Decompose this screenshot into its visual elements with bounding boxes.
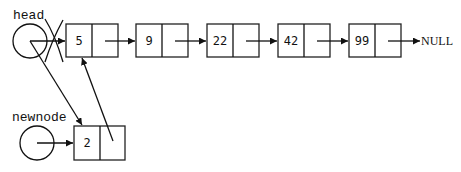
node-value: 5 bbox=[75, 34, 82, 48]
null-label: NULL bbox=[421, 34, 453, 48]
linked-list-diagram: head 5 9 22 42 99 NULL newnode bbox=[0, 0, 461, 172]
node-value: 42 bbox=[284, 34, 298, 48]
new-node-2: 2 bbox=[74, 126, 125, 160]
node-value: 99 bbox=[355, 34, 369, 48]
head-label: head bbox=[13, 8, 44, 23]
node-value: 22 bbox=[213, 34, 227, 48]
newnode-label: newnode bbox=[12, 110, 67, 125]
node-value: 9 bbox=[145, 34, 152, 48]
node-value: 2 bbox=[83, 136, 90, 150]
